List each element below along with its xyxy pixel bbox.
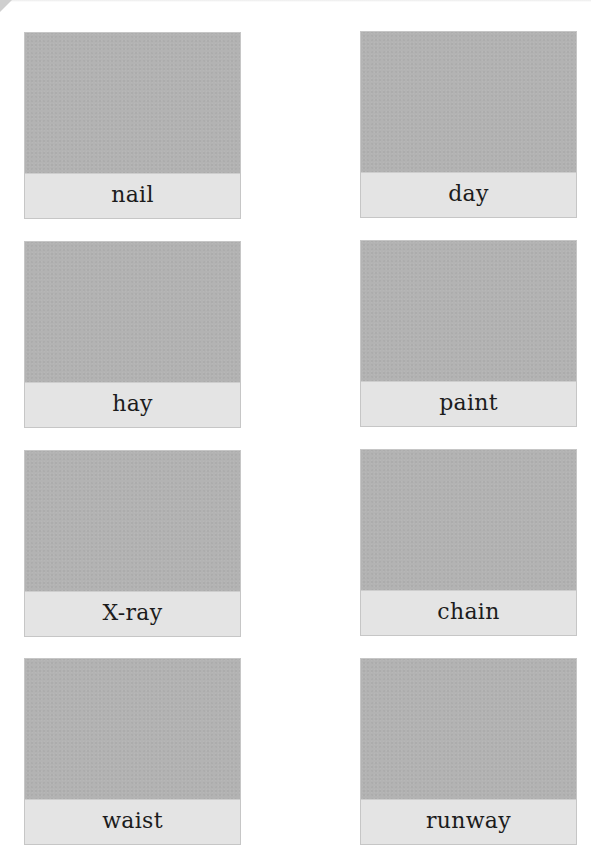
word-card-waist: waist [24, 658, 241, 845]
picture-placeholder [25, 33, 240, 173]
word-label: runway [426, 810, 511, 834]
word-label: chain [437, 601, 499, 625]
picture-placeholder [361, 32, 576, 172]
word-label-band: chain [361, 590, 576, 635]
word-card-chain: chain [360, 449, 577, 636]
word-label-band: X-ray [25, 591, 240, 636]
word-label: hay [112, 393, 153, 417]
picture-placeholder [25, 451, 240, 591]
word-label-band: nail [25, 173, 240, 218]
word-card-hay: hay [24, 241, 241, 428]
page-top-edge [0, 0, 591, 2]
word-card-x-ray: X-ray [24, 450, 241, 637]
word-card-day: day [360, 31, 577, 218]
word-label: waist [102, 810, 163, 834]
page-corner-fold [0, 0, 12, 12]
word-card-runway: runway [360, 658, 577, 845]
word-label-band: runway [361, 799, 576, 844]
word-label: day [448, 183, 489, 207]
word-label-band: paint [361, 381, 576, 426]
picture-placeholder [25, 659, 240, 799]
word-label: X-ray [103, 602, 163, 626]
word-label-band: waist [25, 799, 240, 844]
picture-placeholder [361, 450, 576, 590]
picture-placeholder [25, 242, 240, 382]
word-label: paint [439, 392, 498, 416]
picture-placeholder [361, 241, 576, 381]
word-label-band: day [361, 172, 576, 217]
word-card-paint: paint [360, 240, 577, 427]
word-card-nail: nail [24, 32, 241, 219]
word-label: nail [111, 184, 154, 208]
picture-placeholder [361, 659, 576, 799]
word-label-band: hay [25, 382, 240, 427]
